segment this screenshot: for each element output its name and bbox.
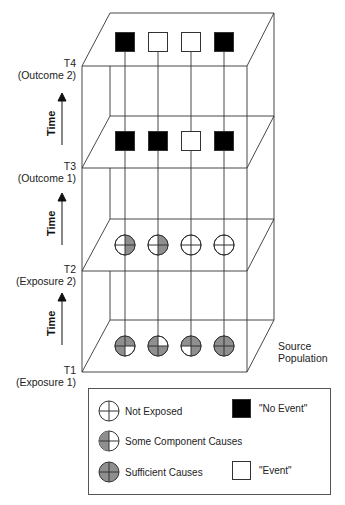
event-square bbox=[149, 33, 168, 52]
no-event-square bbox=[215, 132, 234, 151]
time-label-2: Time bbox=[45, 206, 57, 236]
legend-event: "Event" bbox=[232, 461, 292, 480]
no-event-square bbox=[116, 132, 135, 151]
no-event-square bbox=[116, 33, 135, 52]
legend-some-component: Some Component Causes bbox=[98, 430, 242, 452]
plane-t2 bbox=[82, 219, 274, 271]
legend-no-event-label: "No Event" bbox=[259, 403, 307, 414]
legend-some-component-label: Some Component Causes bbox=[125, 436, 242, 447]
plane-t3 bbox=[82, 116, 274, 168]
not-exposed-icon bbox=[98, 400, 120, 422]
time-label-1: Time bbox=[45, 106, 57, 136]
sufficient-causes-icon bbox=[98, 461, 120, 483]
legend: Not Exposed Some Component Causes Suffic… bbox=[88, 388, 331, 495]
legend-event-label: "Event" bbox=[259, 465, 292, 476]
event-square bbox=[182, 33, 201, 52]
plane-t4 bbox=[82, 13, 274, 66]
time-label-3: Time bbox=[45, 306, 57, 336]
some-component-causes-icon bbox=[98, 430, 120, 452]
event-square-icon bbox=[232, 461, 251, 480]
source-population-label: SourcePopulation bbox=[278, 340, 328, 364]
level-label-t1: T1(Exposure 1) bbox=[0, 364, 76, 388]
no-event-square bbox=[215, 33, 234, 52]
no-event-square-icon bbox=[232, 399, 251, 418]
legend-not-exposed-label: Not Exposed bbox=[125, 406, 182, 417]
legend-sufficient: Sufficient Causes bbox=[98, 461, 203, 483]
no-event-square bbox=[149, 132, 168, 151]
legend-not-exposed: Not Exposed bbox=[98, 400, 182, 422]
legend-sufficient-label: Sufficient Causes bbox=[125, 467, 203, 478]
level-label-t2: T2(Exposure 2) bbox=[0, 263, 76, 287]
level-label-t3: T3(Outcome 1) bbox=[0, 160, 76, 184]
plane-t1 bbox=[82, 320, 274, 372]
event-square bbox=[182, 132, 201, 151]
legend-no-event: "No Event" bbox=[232, 399, 307, 418]
level-label-t4: T4(Outcome 2) bbox=[0, 57, 76, 81]
